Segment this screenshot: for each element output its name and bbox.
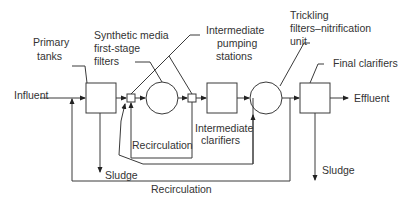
pumping-station-1	[127, 94, 135, 102]
label-final-clarifiers: Final clarifiers	[333, 57, 398, 69]
label-recirculation-inner: Recirculation	[132, 139, 193, 151]
label-intermediate-clarifiers-1: Intermediate	[195, 122, 254, 134]
primary-tank	[86, 83, 116, 113]
intermediate-clarifier	[207, 83, 237, 113]
label-intermediate-clarifiers-2: clarifiers	[201, 134, 240, 146]
process-flow-diagram: Influent Primary tanks Synthetic media f…	[0, 0, 410, 203]
label-trickling-2: filters–nitrification	[290, 22, 371, 34]
label-effluent: Effluent	[354, 92, 389, 104]
label-synthetic-2: first-stage	[94, 42, 140, 54]
label-trickling-1: Trickling	[290, 9, 329, 21]
trickling-filter	[250, 82, 282, 114]
label-primary-tanks-2: tanks	[37, 50, 62, 62]
pumping-station-2	[188, 94, 196, 102]
label-influent: Influent	[14, 89, 49, 101]
label-primary-tanks-1: Primary	[33, 36, 70, 48]
label-synthetic-1: Synthetic media	[94, 29, 169, 41]
label-trickling-3: unit	[290, 35, 307, 47]
label-pumping-2: pumping	[217, 37, 257, 49]
final-clarifier	[300, 83, 330, 113]
label-synthetic-3: filters	[94, 55, 119, 67]
label-recirculation-outer: Recirculation	[151, 183, 212, 195]
label-pumping-3: stations	[216, 50, 252, 62]
label-sludge-right: Sludge	[322, 164, 355, 176]
label-sludge-left: Sludge	[105, 169, 138, 181]
label-pumping-1: Intermediate	[206, 24, 265, 36]
synthetic-media-filter	[146, 82, 178, 114]
